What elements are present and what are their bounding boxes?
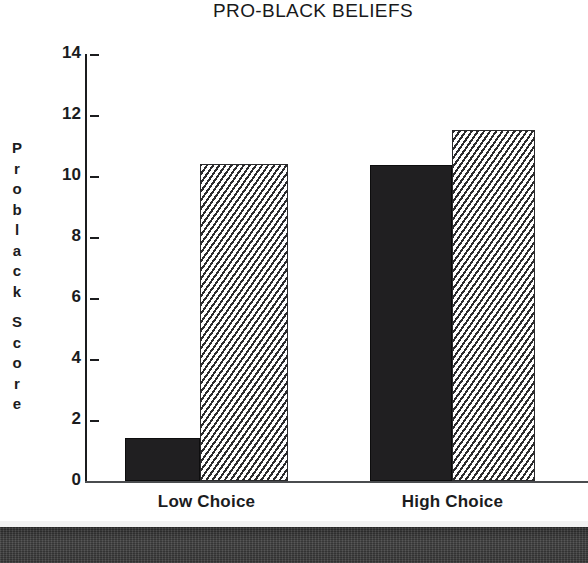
y-axis-tick-mark <box>90 176 99 178</box>
x-axis-label-low-choice: Low Choice <box>125 492 288 512</box>
y-axis-title-letter: P <box>6 138 28 159</box>
y-axis-tick-label: 12 <box>41 104 81 124</box>
y-axis-tick-mark <box>90 115 99 117</box>
y-axis-title-letter: o <box>6 179 28 200</box>
y-axis-tick-label: 0 <box>41 470 81 490</box>
y-axis-tick-label: 2 <box>41 409 81 429</box>
y-axis-title-letter: a <box>6 241 28 262</box>
y-axis-tick-mark <box>90 54 99 56</box>
y-axis-tick-label: 4 <box>41 348 81 368</box>
bar-low-choice-hatched <box>200 164 288 481</box>
y-axis-line <box>85 54 87 482</box>
y-axis-title-word-gap <box>6 302 28 312</box>
y-axis-tick-label: 8 <box>41 226 81 246</box>
y-axis-title: P r o b l a c k S c o r e <box>6 138 28 415</box>
plot-area: 02468101214 <box>85 54 537 481</box>
x-axis-label-high-choice: High Choice <box>370 492 535 512</box>
y-axis-title-letter: l <box>6 220 28 241</box>
y-axis-title-letter: e <box>6 394 28 415</box>
y-axis-tick-mark <box>90 420 99 422</box>
y-axis-title-letter: S <box>6 312 28 333</box>
y-axis-tick-label: 10 <box>41 165 81 185</box>
bar-high-choice-solid <box>370 165 452 481</box>
figure-page: PRO-BLACK BELIEFS P r o b l a c k S c o … <box>0 0 588 563</box>
y-axis-title-letter: r <box>6 159 28 180</box>
y-axis-title-letter: o <box>6 353 28 374</box>
x-axis-line <box>85 481 588 483</box>
bar-low-choice-solid <box>125 438 200 481</box>
bar-high-choice-hatched <box>452 130 535 481</box>
y-axis-tick-label: 14 <box>41 43 81 63</box>
y-axis-title-letter: r <box>6 374 28 395</box>
y-axis-title-letter: b <box>6 200 28 221</box>
y-axis-title-letter: c <box>6 333 28 354</box>
y-axis-tick-mark <box>90 237 99 239</box>
y-axis-title-letter: k <box>6 282 28 303</box>
caption-band: Figure 2 <box>0 527 588 563</box>
y-axis-tick-mark <box>90 298 99 300</box>
y-axis-title-letter: c <box>6 261 28 282</box>
page-title: PRO-BLACK BELIEFS <box>0 0 588 22</box>
y-axis-tick-label: 6 <box>41 287 81 307</box>
y-axis-tick-mark <box>90 359 99 361</box>
